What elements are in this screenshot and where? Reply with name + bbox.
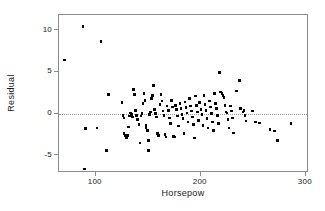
data-point [150, 97, 153, 100]
data-point [197, 119, 200, 122]
data-point [209, 106, 212, 109]
data-point [186, 112, 189, 115]
data-point [163, 114, 166, 117]
y-axis-title-text: Residual [6, 74, 16, 111]
data-point [105, 149, 108, 152]
data-point [210, 112, 213, 115]
data-point [84, 127, 87, 130]
data-point [184, 101, 187, 104]
data-point [139, 142, 142, 145]
data-point [154, 112, 157, 115]
data-point [232, 132, 235, 135]
data-point [223, 96, 226, 99]
data-point [206, 117, 209, 120]
data-point [194, 95, 197, 98]
data-point [177, 125, 180, 128]
data-point [142, 102, 145, 105]
data-point [273, 130, 276, 133]
data-point [134, 109, 137, 112]
data-point [136, 118, 139, 121]
data-point [215, 107, 218, 110]
data-point [238, 79, 241, 82]
x-tick-mark [305, 172, 306, 176]
data-point [216, 114, 219, 117]
data-point [192, 123, 195, 126]
data-point [189, 105, 192, 108]
data-point [205, 109, 208, 112]
data-point [151, 94, 154, 97]
data-point [229, 105, 232, 108]
data-point [230, 110, 233, 113]
data-point [107, 93, 110, 96]
data-point [243, 109, 246, 112]
data-point [143, 92, 146, 95]
data-point [161, 100, 164, 103]
data-point [191, 116, 194, 119]
data-point [188, 97, 191, 100]
data-point [159, 103, 162, 106]
data-point [187, 121, 190, 124]
data-point [96, 127, 99, 130]
data-point [235, 90, 238, 93]
data-point [167, 109, 170, 112]
data-point [126, 134, 129, 137]
data-point [204, 103, 207, 106]
data-point [213, 92, 216, 95]
data-point [212, 129, 215, 132]
data-point [254, 121, 257, 124]
data-point [181, 113, 184, 116]
data-point [231, 117, 234, 120]
data-point [166, 105, 169, 108]
data-point [162, 110, 165, 113]
data-point [228, 127, 231, 130]
data-point [185, 106, 188, 109]
plot-frame [58, 14, 308, 172]
data-point [244, 114, 247, 117]
data-point [138, 123, 141, 126]
data-point [155, 116, 158, 119]
y-tick-label: -5 [22, 150, 52, 159]
x-tick-mark [200, 172, 201, 176]
data-point [63, 59, 66, 62]
data-point [121, 101, 124, 104]
x-tick-label: 200 [185, 177, 215, 187]
data-point [148, 113, 151, 116]
data-point [175, 108, 178, 111]
x-axis-title: Horsepow [58, 188, 308, 198]
data-point [100, 40, 103, 43]
data-point [258, 122, 261, 125]
data-point [174, 104, 177, 107]
data-point [146, 129, 149, 132]
data-point [195, 104, 198, 107]
y-tick-label: 10 [22, 25, 52, 34]
data-point [149, 111, 152, 114]
plot-area [59, 15, 307, 171]
data-point [125, 137, 128, 140]
data-point [245, 120, 248, 123]
data-point [207, 127, 210, 130]
data-point [83, 168, 86, 171]
data-point [170, 99, 173, 102]
data-point [276, 139, 279, 142]
data-point [182, 117, 185, 120]
data-point [198, 101, 201, 104]
data-point [211, 121, 214, 124]
data-point [251, 110, 254, 113]
data-point [196, 111, 199, 114]
data-point [132, 88, 135, 91]
data-point [147, 139, 150, 142]
data-point [160, 93, 163, 96]
data-point [127, 126, 130, 129]
data-point [133, 93, 136, 96]
data-point [147, 149, 150, 152]
data-point [226, 112, 229, 115]
data-point [214, 102, 217, 105]
data-point [290, 122, 293, 125]
data-point [144, 99, 147, 102]
data-point [218, 71, 221, 74]
data-point [227, 118, 230, 121]
data-point [140, 115, 143, 118]
data-point [141, 112, 144, 115]
data-point [176, 115, 179, 118]
data-point [190, 110, 193, 113]
